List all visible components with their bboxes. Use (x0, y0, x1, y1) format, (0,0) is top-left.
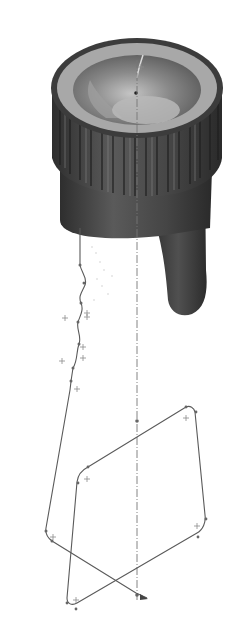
cad-drawing (0, 0, 236, 625)
sketch-residue (91, 246, 113, 301)
sweep-path (45, 228, 148, 598)
path-end-arrow (140, 594, 148, 600)
profile-nodes (66, 406, 208, 611)
profile-sketch (66, 406, 208, 611)
